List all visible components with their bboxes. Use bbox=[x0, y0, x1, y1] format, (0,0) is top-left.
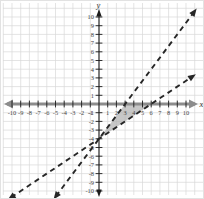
svg-text:10: 10 bbox=[88, 13, 94, 20]
svg-text:8: 8 bbox=[91, 31, 94, 38]
svg-text:8: 8 bbox=[167, 109, 170, 116]
svg-text:-6: -6 bbox=[44, 109, 49, 116]
svg-text:5: 5 bbox=[91, 57, 94, 64]
grid-lines bbox=[3, 3, 203, 195]
svg-text:1: 1 bbox=[106, 109, 109, 116]
svg-text:-10: -10 bbox=[8, 109, 17, 116]
svg-text:-7: -7 bbox=[35, 109, 41, 116]
svg-text:2: 2 bbox=[91, 83, 94, 90]
svg-text:2: 2 bbox=[115, 109, 118, 116]
svg-text:-4: -4 bbox=[89, 135, 95, 142]
svg-text:1: 1 bbox=[91, 92, 94, 99]
svg-text:-7: -7 bbox=[89, 161, 95, 168]
svg-text:-9: -9 bbox=[89, 179, 94, 186]
svg-text:9: 9 bbox=[91, 22, 94, 29]
x-axis-label: x bbox=[199, 99, 204, 109]
svg-text:10: 10 bbox=[183, 109, 189, 116]
svg-text:-8: -8 bbox=[89, 170, 94, 177]
svg-text:-3: -3 bbox=[70, 109, 75, 116]
svg-text:-6: -6 bbox=[89, 153, 94, 160]
y-axis-label: y bbox=[96, 1, 101, 10]
svg-text:-3: -3 bbox=[89, 126, 94, 133]
svg-text:3: 3 bbox=[91, 74, 94, 81]
svg-text:-9: -9 bbox=[18, 109, 23, 116]
svg-text:6: 6 bbox=[91, 48, 94, 55]
svg-text:-1: -1 bbox=[89, 109, 94, 116]
svg-text:3: 3 bbox=[123, 109, 126, 116]
svg-text:-2: -2 bbox=[89, 118, 94, 125]
coordinate-plane: -10-9-8-7-6-5-4-3-2-112345678910-10-9-8-… bbox=[1, 1, 204, 199]
svg-text:-2: -2 bbox=[79, 109, 84, 116]
svg-text:-10: -10 bbox=[85, 187, 94, 194]
svg-text:5: 5 bbox=[141, 109, 144, 116]
svg-text:6: 6 bbox=[150, 109, 153, 116]
svg-text:-8: -8 bbox=[27, 109, 32, 116]
graph-container: -10-9-8-7-6-5-4-3-2-112345678910-10-9-8-… bbox=[0, 0, 204, 199]
svg-text:-4: -4 bbox=[62, 109, 68, 116]
svg-text:-5: -5 bbox=[53, 109, 58, 116]
svg-text:9: 9 bbox=[176, 109, 179, 116]
